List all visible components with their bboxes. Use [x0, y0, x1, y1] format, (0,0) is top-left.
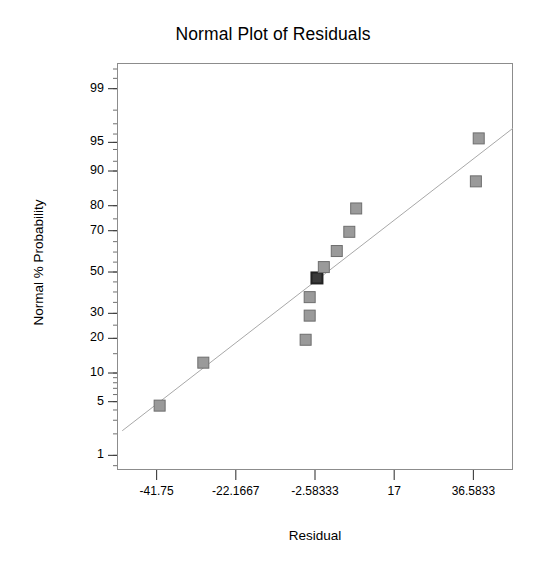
axes-overlay: 99959080705030201051 -41.75-22.1667-2.58… — [0, 0, 546, 574]
normal-probability-plot-figure: Normal Plot of Residuals Normal % Probab… — [0, 0, 546, 574]
axis-tick-marks — [0, 0, 546, 574]
